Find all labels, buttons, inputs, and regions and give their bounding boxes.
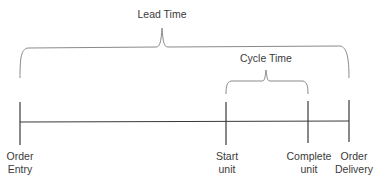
milestone-line2: unit bbox=[283, 163, 335, 176]
milestone-start-unit: Start unit bbox=[209, 150, 245, 176]
milestone-line1: Complete bbox=[283, 150, 335, 163]
milestone-line2: Entry bbox=[1, 163, 39, 176]
milestone-order-entry: Order Entry bbox=[1, 150, 39, 176]
milestone-line1: Order bbox=[332, 150, 376, 163]
milestone-complete-unit: Complete unit bbox=[283, 150, 335, 176]
milestone-line2: Delivery bbox=[332, 163, 376, 176]
lead-cycle-time-diagram: Lead Time Cycle Time Order Entry Start u… bbox=[0, 0, 379, 178]
lead-time-brace bbox=[20, 28, 349, 78]
milestone-line1: Start bbox=[209, 150, 245, 163]
milestone-order-delivery: Order Delivery bbox=[332, 150, 376, 176]
lead-time-label: Lead Time bbox=[137, 8, 186, 20]
milestone-line2: unit bbox=[209, 163, 245, 176]
milestone-line1: Order bbox=[1, 150, 39, 163]
cycle-time-brace bbox=[226, 70, 308, 94]
cycle-time-label: Cycle Time bbox=[240, 52, 292, 64]
timeline-axis bbox=[20, 121, 349, 122]
